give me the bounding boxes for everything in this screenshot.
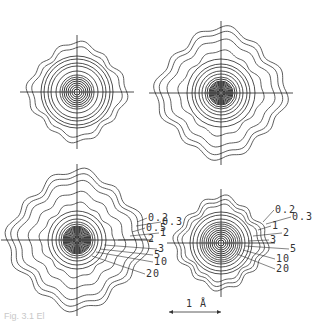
contour-panel-top-left — [20, 35, 134, 149]
contour-value-label: 1 — [272, 220, 279, 231]
contour-value-label: 10 — [154, 256, 168, 267]
contour-value-label: 0.3 — [292, 211, 313, 222]
contour-figure: 0.20.30.5123510200.20.3123510201 Å — [0, 0, 318, 325]
contour-value-label: 20 — [276, 263, 290, 274]
contour-panel-bottom-right — [167, 189, 275, 297]
contour-value-label: 2 — [148, 233, 155, 244]
scale-bar: 1 Å — [169, 297, 221, 314]
scale-bar-label: 1 Å — [186, 297, 207, 309]
contour-panel-top-right — [149, 21, 293, 165]
contour-value-label: 5 — [290, 243, 297, 254]
contour-value-label: 1 — [160, 227, 167, 238]
contour-panel-bottom-left — [1, 164, 153, 316]
contour-value-label: 3 — [270, 234, 277, 245]
contour-value-label: 2 — [283, 227, 290, 238]
contour-value-label: 20 — [146, 268, 160, 279]
figure-caption: Fig. 3.1 El — [4, 311, 45, 321]
